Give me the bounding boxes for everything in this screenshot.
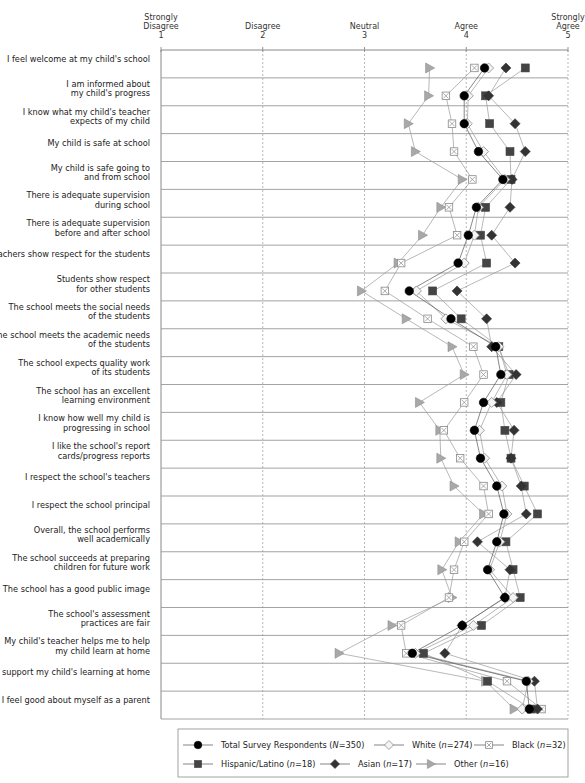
triangle-marker-icon [437, 202, 446, 212]
x-square-marker-icon [442, 92, 450, 100]
circle-marker-icon [405, 287, 414, 296]
row-label: My child's teacher helps me to help [4, 636, 150, 646]
series-line [409, 68, 529, 709]
circle-marker-icon [470, 426, 479, 435]
x-square-marker-icon [397, 622, 405, 630]
circle-marker-icon [479, 398, 488, 407]
row-label: Teachers show respect for the students [0, 249, 150, 259]
row-label: The school has a good public image [2, 584, 150, 594]
triangle-marker-icon [402, 314, 411, 324]
x-square-marker-icon [450, 566, 458, 574]
circle-marker-icon [501, 593, 510, 602]
filled-diamond-marker-icon [520, 147, 530, 157]
row-label: children for future work [54, 562, 151, 572]
legend-label: Black (n=32) [512, 740, 566, 750]
filled-square-marker-icon [533, 510, 541, 518]
circle-marker-icon [483, 565, 492, 574]
x-square-marker-icon [470, 343, 478, 351]
circle-marker-icon [497, 370, 506, 379]
x-tick-label: Disagree [143, 22, 179, 31]
row-label: I feel good about myself as a parent [2, 695, 151, 705]
row-label: Students show respect [57, 274, 151, 284]
row-label: for other students [76, 284, 150, 294]
series-line [385, 68, 542, 709]
triangle-marker-icon [411, 147, 420, 157]
row-label: I feel welcome at my child's school [7, 54, 150, 64]
legend-label: Other (n=16) [454, 759, 509, 769]
triangle-marker-icon [335, 648, 344, 658]
row-label: My child is safe at school [47, 138, 150, 148]
filled-diamond-marker-icon [509, 425, 519, 435]
x-tick-label: Strongly [144, 13, 178, 22]
x-square-marker-icon [397, 259, 405, 267]
legend-item: Asian (n=17) [320, 759, 412, 769]
triangle-marker-icon [437, 453, 446, 463]
series-markers [335, 63, 545, 714]
circle-marker-icon [476, 454, 485, 463]
x-square-marker-icon [480, 482, 488, 490]
row-label: I support my child's learning at home [0, 667, 150, 677]
x-square-marker-icon [453, 231, 461, 239]
series-line [339, 68, 514, 709]
row-label: learning environment [62, 395, 151, 405]
x-square-marker-icon [503, 677, 511, 685]
filled-square-marker-icon [484, 677, 492, 685]
x-square-marker-icon [440, 427, 448, 435]
circle-marker-icon [472, 203, 481, 212]
row-label: The school succeeds at preparing [11, 553, 150, 563]
triangle-marker-icon [458, 174, 467, 184]
row-label: practices are fair [81, 618, 151, 628]
open-diamond-marker-icon [468, 620, 478, 630]
row-label: I know how well my child is [38, 413, 150, 423]
filled-diamond-marker-icon [501, 63, 511, 73]
series-line [424, 68, 538, 709]
row-labels: I feel welcome at my child's schoolI am … [0, 54, 151, 705]
filled-square-marker-icon [521, 64, 529, 72]
row-label: The school expects quality work [17, 358, 150, 368]
legend: Total Survey Respondents (N=350)White (n… [178, 729, 568, 777]
triangle-marker-icon [388, 620, 397, 630]
row-label: I know what my child's teacher [23, 107, 151, 117]
triangle-marker-icon [418, 230, 427, 240]
circle-marker-icon [458, 621, 467, 630]
circle-marker-icon [500, 510, 509, 519]
x-square-marker-icon [381, 287, 389, 295]
filled-diamond-marker-icon [487, 230, 497, 240]
x-tick-label: Neutral [350, 22, 380, 31]
x-square-marker-icon [445, 594, 453, 602]
x-square-marker-icon [485, 510, 493, 518]
circle-marker-icon [408, 649, 417, 658]
legend-item: Black (n=32) [474, 740, 566, 750]
filled-square-marker-icon [194, 760, 201, 767]
legend-item: White (n=274) [374, 740, 473, 750]
row-label: Overall, the school performs [34, 525, 150, 535]
x-square-marker-icon [456, 454, 464, 462]
row-label: of its students [92, 367, 150, 377]
row-label: I am informed about [66, 79, 150, 89]
row-label: well academically [77, 534, 150, 544]
row-label: There is adequate supervision [25, 190, 150, 200]
filled-square-marker-icon [457, 315, 465, 323]
circle-marker-icon [492, 342, 501, 351]
triangle-marker-icon [425, 91, 434, 101]
row-label: during school [95, 200, 150, 210]
row-label: before and after school [55, 228, 150, 238]
filled-square-marker-icon [506, 148, 514, 156]
x-tick-label: 1 [158, 31, 163, 40]
x-tick-label: Agree [454, 22, 478, 31]
filled-diamond-marker-icon [505, 202, 515, 212]
circle-marker-icon [525, 705, 534, 714]
row-label: and from school [84, 172, 150, 182]
row-label: progressing in school [63, 423, 150, 433]
x-square-marker-icon [445, 204, 453, 212]
circle-marker-icon [460, 119, 469, 128]
filled-square-marker-icon [501, 426, 509, 434]
row-label: The school meets the social needs [7, 302, 150, 312]
circle-marker-icon [447, 315, 456, 324]
triangle-marker-icon [438, 565, 447, 575]
triangle-marker-icon [448, 342, 457, 352]
row-label: expects of my child [70, 116, 150, 126]
circle-marker-icon [194, 741, 202, 749]
circle-marker-icon [454, 259, 463, 268]
row-label: of the students [88, 311, 150, 321]
